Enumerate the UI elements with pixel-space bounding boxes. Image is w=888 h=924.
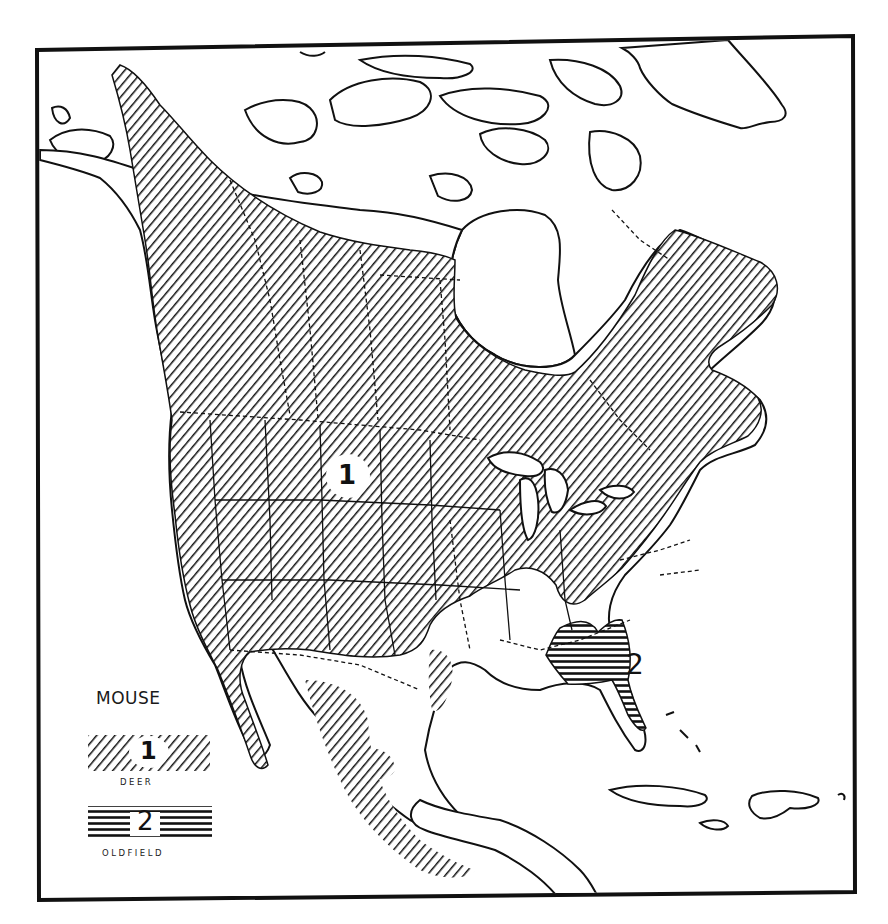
legend-oldfield-label: OLDFIELD [102, 848, 164, 858]
legend-deer-label: DEER [120, 777, 153, 787]
legend-title: MOUSE [96, 688, 161, 708]
range-2-label: 2 [626, 648, 644, 681]
legend-deer-number: 1 [140, 737, 157, 765]
central-america-outline [411, 800, 600, 900]
legend-oldfield-number: 2 [137, 806, 154, 836]
range-1-label: 1 [338, 460, 356, 490]
greenland-outline [622, 40, 786, 128]
